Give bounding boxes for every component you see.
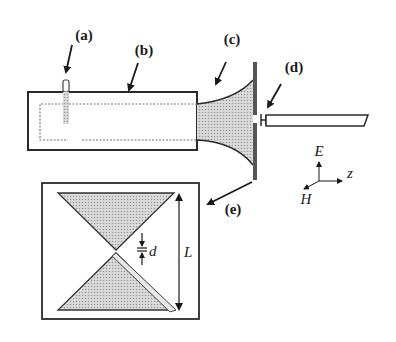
ground-plate <box>253 62 257 180</box>
label-c: (c) <box>224 31 241 48</box>
label-e: (e) <box>225 201 242 218</box>
axis-label-H: H <box>300 191 313 207</box>
detector-rod <box>261 114 368 126</box>
horn-antenna-diagram: (a) (b) (c) (d) (e) d L E z H <box>0 0 396 342</box>
horn-flare <box>197 80 253 165</box>
label-d: (d) <box>285 59 303 76</box>
field-axes <box>304 162 342 189</box>
length-label-L: L <box>183 244 192 260</box>
label-b: (b) <box>135 42 153 59</box>
bowtie-antenna-detail <box>42 183 199 319</box>
waveguide <box>28 92 197 150</box>
axis-label-z: z <box>346 165 353 181</box>
gap-label-d: d <box>149 243 157 259</box>
axis-label-E: E <box>313 143 323 159</box>
feed-probe <box>63 80 69 124</box>
label-a: (a) <box>75 27 93 44</box>
